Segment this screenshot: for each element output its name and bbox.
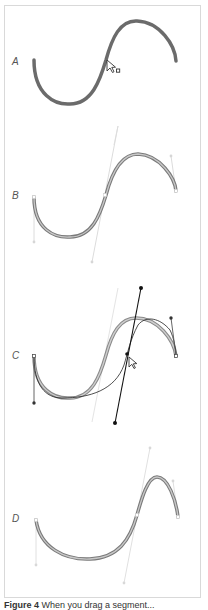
bezier-path-d[interactable] bbox=[36, 477, 178, 559]
handle-endpoint-top-c[interactable] bbox=[139, 286, 143, 290]
panel-d bbox=[35, 447, 180, 585]
anchor-point-left-b[interactable] bbox=[33, 196, 36, 199]
anchor-point-center-b[interactable] bbox=[104, 194, 107, 197]
panel-b bbox=[33, 126, 178, 263]
anchor-point-right-b[interactable] bbox=[175, 190, 178, 193]
direct-selection-cursor-icon bbox=[107, 60, 120, 73]
panel-a bbox=[34, 21, 176, 145]
caption-prefix: Figure 4 bbox=[4, 600, 39, 610]
figure-caption: Figure 4 When you drag a segment... bbox=[4, 600, 155, 610]
anchor-point-left-c[interactable] bbox=[33, 355, 36, 358]
bezier-path-a[interactable] bbox=[34, 21, 176, 104]
panel-c bbox=[32, 286, 177, 425]
drag-point-c[interactable] bbox=[125, 352, 129, 356]
anchor-point-right-c[interactable] bbox=[175, 355, 178, 358]
caption-text: When you drag a segment... bbox=[42, 600, 155, 610]
handle-endpoint-bottom-c[interactable] bbox=[113, 421, 117, 425]
anchor-point-left-d[interactable] bbox=[35, 519, 38, 522]
anchor-point-center-d[interactable] bbox=[136, 514, 139, 517]
anchor-point-right-d[interactable] bbox=[177, 516, 180, 519]
direct-selection-cursor-icon bbox=[129, 357, 137, 369]
dragged-direction-handle-c[interactable] bbox=[115, 288, 141, 423]
